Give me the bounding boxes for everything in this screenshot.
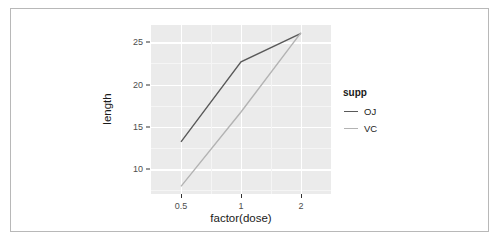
x-tick-mark xyxy=(181,194,182,198)
series-lines xyxy=(151,25,331,194)
legend-item-oj[interactable]: OJ xyxy=(343,104,377,119)
legend-line-swatch xyxy=(344,128,358,130)
x-tick-label: 2 xyxy=(298,201,303,211)
y-tick-label: 25 xyxy=(111,37,143,47)
series-line-oj xyxy=(181,33,301,142)
legend-items: OJVC xyxy=(343,104,377,136)
legend-line-swatch xyxy=(344,111,358,113)
y-tick-mark xyxy=(146,169,150,170)
x-tick-mark xyxy=(301,194,302,198)
x-tick-mark xyxy=(241,194,242,198)
x-tick-label: 0.5 xyxy=(175,201,188,211)
y-tick-mark xyxy=(146,42,150,43)
y-tick-label: 15 xyxy=(111,122,143,132)
legend-label: VC xyxy=(364,123,377,134)
y-tick-label: 20 xyxy=(111,80,143,90)
legend-item-vc[interactable]: VC xyxy=(343,121,377,136)
legend-key-icon xyxy=(343,121,359,136)
plot-area: 10152025 0.512 factor(dose) length supp … xyxy=(11,9,490,233)
legend-title: supp xyxy=(343,87,377,98)
y-axis-title: length xyxy=(101,93,113,124)
y-tick-mark xyxy=(146,84,150,85)
x-tick-label: 1 xyxy=(238,201,243,211)
chart-screenshot: 10152025 0.512 factor(dose) length supp … xyxy=(0,0,501,247)
legend-label: OJ xyxy=(364,106,376,117)
x-axis-title: factor(dose) xyxy=(151,212,331,224)
series-line-vc xyxy=(181,33,301,187)
y-tick-mark xyxy=(146,126,150,127)
legend-key-icon xyxy=(343,104,359,119)
plot-panel xyxy=(151,25,331,194)
legend: supp OJVC xyxy=(343,87,377,138)
figure-frame: 10152025 0.512 factor(dose) length supp … xyxy=(10,8,489,232)
y-tick-label: 10 xyxy=(111,164,143,174)
